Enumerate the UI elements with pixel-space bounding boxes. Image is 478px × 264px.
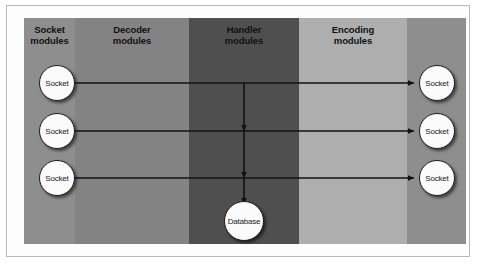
socket-node-in-1-label: Socket <box>45 79 68 88</box>
socket-node-in-2[interactable]: Socket <box>39 113 75 149</box>
socket-node-in-1[interactable]: Socket <box>39 65 75 101</box>
diagram-screenshot: Socket modules Decoder modules Handler m… <box>0 0 478 264</box>
diagram-canvas: Socket modules Decoder modules Handler m… <box>24 18 466 244</box>
socket-node-out-1-label: Socket <box>425 79 448 88</box>
socket-node-in-3-label: Socket <box>45 174 68 183</box>
column-label-decoder-modules: Decoder modules <box>75 24 189 46</box>
figure-frame: Socket modules Decoder modules Handler m… <box>6 5 470 257</box>
socket-node-in-2-label: Socket <box>45 127 68 136</box>
column-encoding-modules: Encoding modules <box>299 18 407 244</box>
database-node-label: Database <box>228 217 261 226</box>
socket-node-out-2-label: Socket <box>425 127 448 136</box>
column-label-socket-modules: Socket modules <box>24 24 75 46</box>
column-decoder-modules: Decoder modules <box>75 18 189 244</box>
column-label-handler-modules: Handler modules <box>189 24 299 46</box>
socket-node-out-3[interactable]: Socket <box>419 160 455 196</box>
socket-node-out-3-label: Socket <box>425 174 448 183</box>
socket-node-in-3[interactable]: Socket <box>39 160 75 196</box>
column-label-encoding-modules: Encoding modules <box>299 24 407 46</box>
socket-node-out-2[interactable]: Socket <box>419 113 455 149</box>
database-node[interactable]: Database <box>224 201 264 241</box>
socket-node-out-1[interactable]: Socket <box>419 65 455 101</box>
